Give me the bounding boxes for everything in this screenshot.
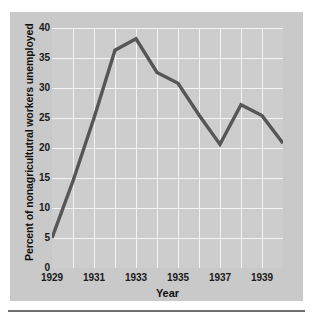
- x-axis-tick-label: 1937: [200, 272, 240, 284]
- unemployment-series-line: [52, 28, 283, 268]
- x-axis-tick-labels: 192919311933193519371939: [0, 272, 313, 286]
- y-axis-title: Percent of nonagricultutral workers unem…: [23, 31, 35, 261]
- plot-area: [52, 28, 283, 268]
- unemployment-line-chart-figure: 0510152025303540 19291931193319351937193…: [0, 0, 313, 319]
- x-axis-title: Year: [52, 287, 283, 299]
- x-axis-tick-label: 1929: [32, 272, 72, 284]
- x-axis-tick-label: 1933: [116, 272, 156, 284]
- x-axis-tick-label: 1939: [242, 272, 282, 284]
- x-axis-tick-label: 1931: [74, 272, 114, 284]
- x-axis-tick-label: 1935: [158, 272, 198, 284]
- bottom-divider-rule: [8, 310, 305, 312]
